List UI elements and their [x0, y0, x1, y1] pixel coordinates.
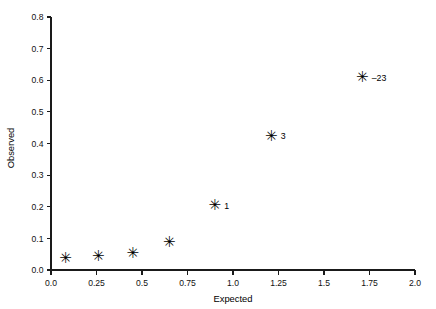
y-tick-label-1: 0.1: [32, 234, 44, 244]
x-tick-label-3: 0.75: [179, 278, 196, 288]
y-axis-title: Observed: [5, 128, 16, 169]
data-point-marker-4: ✳: [209, 196, 222, 214]
y-tick-label-4: 0.4: [32, 139, 44, 149]
axis-spines: [51, 17, 415, 270]
y-tick-label-2: 0.2: [32, 202, 44, 212]
data-point-label-5: 3: [281, 131, 286, 141]
x-tick-label-7: 1.75: [361, 278, 378, 288]
axes: [51, 17, 415, 270]
x-tick-label-6: 1.5: [318, 278, 330, 288]
y-tick-label-3: 0.3: [32, 170, 44, 180]
scatter-plot: 0.00.250.50.751.01.251.51.752.0 0.00.10.…: [0, 0, 436, 309]
data-point-label-4: 1: [224, 201, 229, 211]
y-tick-label-6: 0.6: [32, 75, 44, 85]
chart-figure: 0.00.250.50.751.01.251.51.752.0 0.00.10.…: [0, 0, 436, 309]
data-point-marker-2: ✳: [127, 244, 140, 262]
data-point-marker-5: ✳: [265, 127, 278, 145]
y-tick-label-5: 0.5: [32, 107, 44, 117]
data-point-marker-0: ✳: [59, 249, 72, 267]
x-tick-label-0: 0.0: [45, 278, 57, 288]
x-tick-label-2: 0.5: [136, 278, 148, 288]
data-point-label-6: –23: [372, 73, 387, 83]
y-tick-label-8: 0.8: [32, 12, 44, 22]
y-tick-label-0: 0.0: [32, 265, 44, 275]
x-tick-label-1: 0.25: [88, 278, 105, 288]
x-tick-label-5: 1.25: [270, 278, 287, 288]
data-point-marker-3: ✳: [163, 233, 176, 251]
data-points: ✳✳✳✳✳1✳3✳–23: [59, 68, 386, 267]
y-axis-ticks: 0.00.10.20.30.40.50.60.70.8: [32, 12, 51, 275]
data-point-marker-1: ✳: [92, 247, 105, 265]
x-tick-label-8: 2.0: [409, 278, 421, 288]
y-tick-label-7: 0.7: [32, 44, 44, 54]
x-tick-label-4: 1.0: [227, 278, 239, 288]
data-point-marker-6: ✳: [356, 68, 369, 86]
x-axis-ticks: 0.00.250.50.751.01.251.51.752.0: [45, 270, 421, 288]
x-axis-title: Expected: [213, 293, 252, 304]
